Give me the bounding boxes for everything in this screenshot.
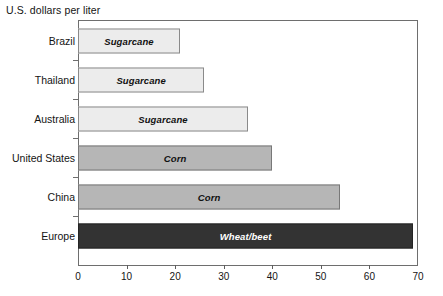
x-tick-label: 60 xyxy=(364,271,375,282)
bar-australia: Sugarcane xyxy=(78,106,248,131)
bar-brazil: Sugarcane xyxy=(78,28,180,53)
bar-row: AustraliaSugarcane xyxy=(0,99,443,138)
x-tick-label: 20 xyxy=(170,271,181,282)
bar-row: ThailandSugarcane xyxy=(0,60,443,99)
x-tick-label: 70 xyxy=(412,271,423,282)
x-tick-label: 30 xyxy=(218,271,229,282)
bar-united-states: Corn xyxy=(78,145,272,170)
x-tick-mark xyxy=(272,265,273,269)
x-tick-label: 40 xyxy=(267,271,278,282)
category-label-united-states: United States xyxy=(12,152,75,164)
category-label-australia: Australia xyxy=(34,113,75,125)
x-tick-label: 10 xyxy=(121,271,132,282)
bar-thailand: Sugarcane xyxy=(78,67,204,92)
bar-value-label: Sugarcane xyxy=(116,74,165,85)
x-tick-label: 0 xyxy=(75,271,81,282)
x-tick-mark xyxy=(224,265,225,269)
category-label-china: China xyxy=(48,191,75,203)
category-label-thailand: Thailand xyxy=(35,74,75,86)
bar-row: BrazilSugarcane xyxy=(0,21,443,60)
bar-china: Corn xyxy=(78,184,340,209)
bar-value-label: Wheat/beet xyxy=(220,230,272,241)
bar-value-label: Corn xyxy=(198,191,221,202)
bar-value-label: Sugarcane xyxy=(104,35,153,46)
bar-row: EuropeWheat/beet xyxy=(0,216,443,255)
chart-title: U.S. dollars per liter xyxy=(6,4,100,16)
x-axis: 010203040506070 xyxy=(78,265,419,296)
category-label-europe: Europe xyxy=(41,230,75,242)
x-tick-mark xyxy=(321,265,322,269)
x-tick-mark xyxy=(369,265,370,269)
x-tick-label: 50 xyxy=(315,271,326,282)
category-label-brazil: Brazil xyxy=(49,35,75,47)
bar-row: ChinaCorn xyxy=(0,177,443,216)
x-tick-mark xyxy=(127,265,128,269)
bar-row: United StatesCorn xyxy=(0,138,443,177)
x-tick-mark xyxy=(175,265,176,269)
bar-value-label: Corn xyxy=(164,152,187,163)
bar-europe: Wheat/beet xyxy=(78,223,413,248)
bar-value-label: Sugarcane xyxy=(138,113,187,124)
